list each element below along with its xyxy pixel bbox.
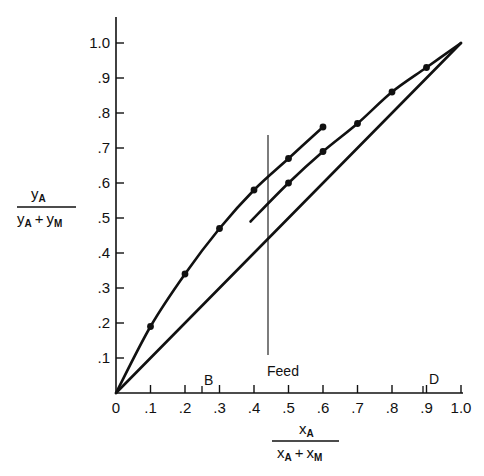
data-point [389, 89, 396, 96]
y-den-b-sub: M [54, 218, 62, 229]
x-tick-label: .1 [144, 399, 157, 416]
y-tick-label: .2 [97, 314, 110, 331]
series-line-1 [251, 43, 461, 222]
svg-text:yA+yM: yA+yM [17, 210, 62, 229]
x-den-b-sub: M [314, 452, 322, 463]
data-point [251, 187, 258, 194]
y-den-a-sub: A [25, 218, 32, 229]
y-tick-label: 1.0 [89, 34, 110, 51]
y-num-sub: A [39, 193, 46, 204]
x-tick-label: .8 [386, 399, 399, 416]
y-tick-label: .6 [97, 174, 110, 191]
svg-text:xA+xM: xA+xM [277, 444, 322, 463]
y-tick-label: .4 [97, 244, 110, 261]
data-point [216, 225, 223, 232]
feed-label: Feed [267, 363, 299, 379]
axes [116, 17, 463, 393]
b-label: B [204, 372, 213, 388]
series-line-0 [116, 127, 323, 393]
x-tick-label: .3 [213, 399, 226, 416]
data-point [285, 180, 292, 187]
svg-text:yA: yA [31, 185, 46, 204]
data-point [182, 271, 189, 278]
x-tick-label: .6 [317, 399, 330, 416]
chart-canvas: .1.2.3.4.5.6.7.8.91.0 0.1.2.3.4.5.6.7.8.… [0, 0, 484, 476]
y-tick-label: .1 [97, 349, 110, 366]
y-tick-label: .9 [97, 69, 110, 86]
data-point [320, 148, 327, 155]
x-den-plus: + [295, 444, 304, 461]
series-layer [116, 43, 461, 393]
y-den-plus: + [35, 210, 44, 227]
data-point [423, 64, 430, 71]
series-line-2 [116, 43, 461, 393]
x-tick-label: 0 [112, 399, 120, 416]
x-tick-label: .4 [248, 399, 261, 416]
data-point [285, 155, 292, 162]
x-num-sub: A [307, 428, 314, 439]
x-tick-label: .2 [179, 399, 192, 416]
y-tick-label: .8 [97, 104, 110, 121]
y-tick-label: .7 [97, 139, 110, 156]
y-axis-label: yA yA+yM [17, 185, 76, 229]
svg-text:xA: xA [299, 420, 314, 439]
data-point [354, 120, 361, 127]
y-tick-label: .3 [97, 279, 110, 296]
x-tick-label: .7 [351, 399, 364, 416]
x-axis-label: xA xA+xM [272, 420, 339, 463]
data-point [320, 124, 327, 131]
x-tick-label: 1.0 [451, 399, 472, 416]
d-label: D [429, 371, 439, 387]
x-tick-label: .5 [282, 399, 295, 416]
data-point [147, 323, 154, 330]
x-den-a-sub: A [285, 452, 292, 463]
x-ticks: 0.1.2.3.4.5.6.7.8.91.0 [112, 385, 472, 416]
y-tick-label: .5 [97, 209, 110, 226]
x-tick-label: .9 [420, 399, 433, 416]
y-ticks: .1.2.3.4.5.6.7.8.91.0 [89, 34, 124, 366]
